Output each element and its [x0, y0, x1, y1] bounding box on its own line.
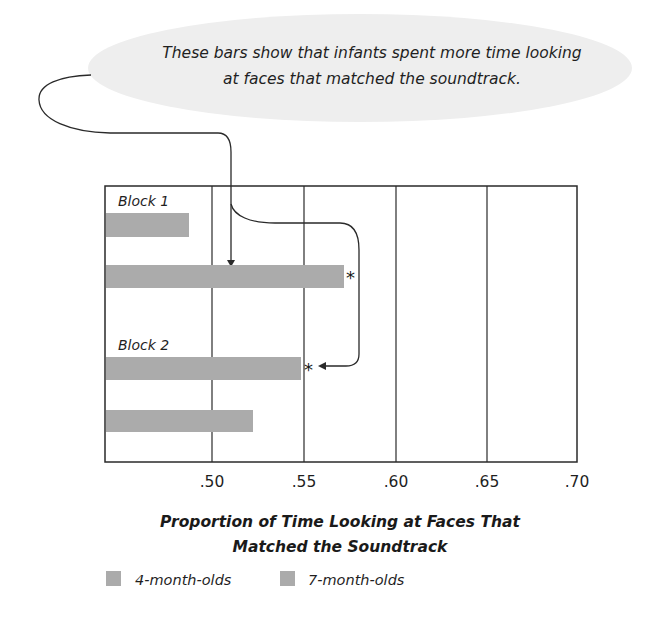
tick-label-70: .70 [565, 473, 590, 491]
legend-label-4-month: 4-month-olds [135, 572, 232, 588]
chart: These bars show that infants spent more … [0, 0, 646, 640]
callout-line-2: at faces that matched the soundtrack. [223, 70, 521, 88]
tick-label-65: .65 [475, 473, 500, 491]
arrow-left-icon [318, 362, 326, 370]
significance-marker-block2: * [304, 359, 313, 380]
bar-block1-4-month [106, 213, 189, 237]
legend-label-7-month: 7-month-olds [308, 572, 405, 588]
tick-label-55: .55 [292, 473, 317, 491]
bars [106, 213, 344, 432]
significance-marker-block1: * [346, 267, 355, 288]
legend-swatch-4-month [106, 571, 121, 586]
bar-block2-7-month [106, 410, 253, 432]
x-axis-ticks: .50 .55 .60 .65 .70 [200, 473, 590, 491]
x-axis-title-line-2: Matched the Soundtrack [233, 538, 450, 556]
legend-swatch-7-month [280, 571, 295, 586]
legend: 4-month-olds 7-month-olds [106, 571, 405, 588]
tick-label-50: .50 [200, 473, 225, 491]
block-2-label: Block 2 [118, 337, 169, 353]
tick-label-60: .60 [384, 473, 409, 491]
callout-bubble [88, 14, 632, 122]
callout-line-1: These bars show that infants spent more … [162, 44, 581, 62]
block-1-label: Block 1 [118, 193, 169, 209]
x-axis-title-line-1: Proportion of Time Looking at Faces That [160, 513, 520, 531]
bar-block2-4-month [106, 357, 301, 380]
bar-block1-7-month [106, 265, 344, 288]
callout: These bars show that infants spent more … [88, 14, 632, 122]
